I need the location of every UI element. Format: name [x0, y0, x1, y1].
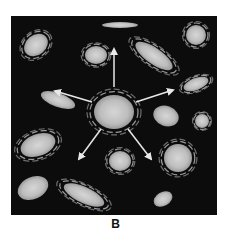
galaxy-top-right-corner	[183, 22, 210, 49]
arrow-down-right	[128, 129, 151, 159]
galaxy-bottom-right	[151, 188, 175, 210]
galaxy-top	[102, 22, 138, 28]
galaxy-left-mid	[39, 87, 78, 112]
galaxy-top-left	[14, 23, 58, 66]
galaxy-right-lower	[159, 139, 197, 177]
arrow-down-left	[79, 129, 101, 159]
galaxy-left-lower	[11, 123, 66, 168]
galaxy-bottom-left	[14, 171, 52, 204]
galaxy-bottom-mid	[53, 173, 116, 215]
galaxy-diagram-canvas	[11, 16, 217, 215]
galaxy-diagram-panel	[11, 16, 217, 215]
galaxy-right-upper	[177, 70, 216, 97]
galaxy-right-mid	[150, 102, 181, 130]
arrow-right	[136, 90, 173, 102]
galaxy-top-mid-left	[81, 43, 111, 67]
figure-label: B	[0, 217, 231, 231]
galaxy-top-right-big	[123, 30, 184, 82]
galaxy-center	[87, 89, 141, 135]
galaxies-group	[11, 22, 215, 216]
galaxy-right-small	[193, 112, 212, 131]
galaxy-center-lower	[105, 148, 135, 175]
